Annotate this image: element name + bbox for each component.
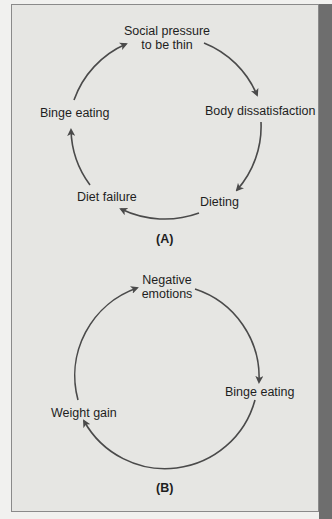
node-text-line: to be thin [120,38,214,52]
arrow-negative-to-binge [195,289,259,382]
diagram-b-arrows [75,288,259,469]
cycle-arrows [0,0,332,519]
arrow-failure-to-binge [71,130,90,185]
node-text-line: emotions [135,287,199,301]
node-text-line: Negative [135,273,199,287]
arrow-dieting-to-failure [121,209,199,219]
node-social-pressure: Social pressure to be thin [120,24,214,52]
node-weight-gain: Weight gain [51,406,117,420]
node-text-line: Social pressure [120,24,214,38]
arrow-weight-to-negative [75,288,137,400]
arrow-body-to-dieting [237,122,261,190]
caption-a: (A) [156,232,173,246]
node-binge-eating-a: Binge eating [40,106,110,120]
node-body-dissatisfaction: Body dissatisfaction [205,104,315,118]
node-binge-eating-b: Binge eating [225,385,295,399]
caption-b: (B) [156,481,173,495]
arrow-binge-to-social [74,44,126,100]
node-negative-emotions: Negative emotions [135,273,199,301]
node-diet-failure: Diet failure [77,190,137,204]
node-dieting: Dieting [200,195,239,209]
